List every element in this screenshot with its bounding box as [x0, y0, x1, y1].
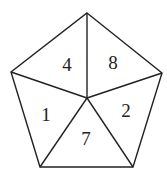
region-label-4: 4: [62, 54, 72, 75]
region-label-1: 1: [41, 104, 51, 125]
region-label-8: 8: [108, 52, 118, 73]
pentagon-diagram: 4 8 1 2 7: [0, 0, 167, 177]
region-label-2: 2: [121, 100, 131, 121]
region-label-7: 7: [81, 128, 91, 149]
